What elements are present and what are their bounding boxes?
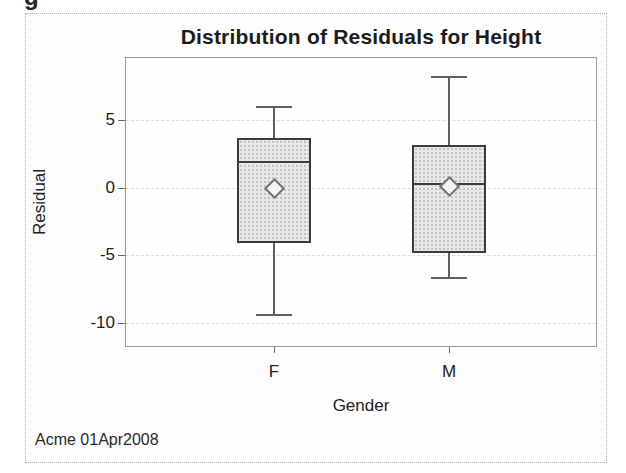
lower-whisker-cap: [256, 314, 292, 316]
x-axis-tick: [449, 347, 450, 353]
y-tick-label: -5: [73, 246, 115, 264]
gridline: [126, 188, 596, 189]
gridline: [126, 255, 596, 256]
footnote-text: Acme 01Apr2008: [35, 431, 159, 449]
plot-area: [125, 57, 597, 347]
scanned-figure-page: g Distribution of Residuals for Height 5…: [0, 0, 626, 473]
x-axis-tick: [274, 347, 275, 353]
upper-whisker: [448, 77, 450, 145]
lower-whisker-cap: [431, 277, 467, 279]
cropped-heading-glyph: g: [24, 0, 39, 10]
upper-whisker-cap: [256, 106, 292, 108]
lower-whisker: [448, 253, 450, 278]
x-category-label: F: [254, 362, 294, 382]
y-tick-label: -10: [73, 314, 115, 332]
gridline: [126, 120, 596, 121]
median-line: [239, 161, 309, 163]
chart-title: Distribution of Residuals for Height: [125, 25, 597, 49]
iqr-box: [412, 145, 486, 253]
y-axis-tick: [118, 120, 125, 121]
x-category-label: M: [429, 362, 469, 382]
upper-whisker: [273, 107, 275, 138]
y-axis-tick: [118, 188, 125, 189]
cropped-heading-fragment: g: [24, 0, 52, 10]
y-axis-tick: [118, 255, 125, 256]
upper-whisker-cap: [431, 76, 467, 78]
gridline: [126, 323, 596, 324]
y-axis-tick: [118, 323, 125, 324]
y-axis-title: Residual: [30, 169, 50, 235]
y-tick-label: 5: [73, 111, 115, 129]
lower-whisker: [273, 243, 275, 315]
x-axis-title: Gender: [125, 396, 597, 416]
y-tick-label: 0: [73, 179, 115, 197]
